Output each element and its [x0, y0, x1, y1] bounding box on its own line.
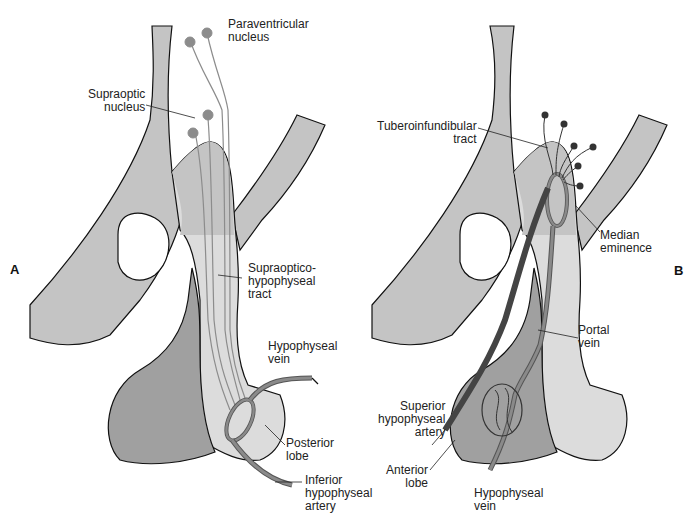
pituitary-diagram — [0, 0, 688, 524]
label-hypophyseal-vein-a: Hypophyseal vein — [268, 340, 337, 366]
optic-chiasm-b — [460, 213, 511, 280]
neuron-icon — [185, 37, 195, 47]
optic-chiasm — [118, 213, 169, 280]
label-inferior-hypophyseal-artery: Inferior hypophyseal artery — [305, 474, 372, 513]
panel-label-a: A — [10, 262, 19, 277]
hypothalamus-right-arm — [232, 115, 325, 250]
panel-a-drawing — [30, 26, 325, 485]
neuron-icon — [203, 110, 213, 120]
label-posterior-lobe: Posterior lobe — [286, 437, 334, 463]
label-tuberoinfundibular-tract: Tuberoinfundibular tract — [377, 120, 477, 146]
label-median-eminence: Median eminence — [600, 229, 652, 255]
label-supraoptic-nucleus: Supraoptic nucleus — [88, 88, 145, 114]
panel-label-b: B — [674, 263, 683, 278]
label-paraventricular-nucleus: Paraventricular nucleus — [228, 18, 309, 44]
hypothalamus-left-wall — [30, 26, 196, 345]
neuron-icon — [188, 128, 198, 138]
neuron-icon — [202, 28, 212, 38]
label-portal-vein: Portal vein — [578, 324, 609, 350]
label-anterior-lobe: Anterior lobe — [386, 464, 428, 490]
label-hypophyseal-vein-b: Hypophyseal vein — [474, 487, 543, 513]
label-supraoptico-hypophyseal-tract: Supraoptico- hypophyseal tract — [248, 262, 316, 301]
label-superior-hypophyseal-artery: Superior hypophyseal artery — [378, 400, 445, 439]
